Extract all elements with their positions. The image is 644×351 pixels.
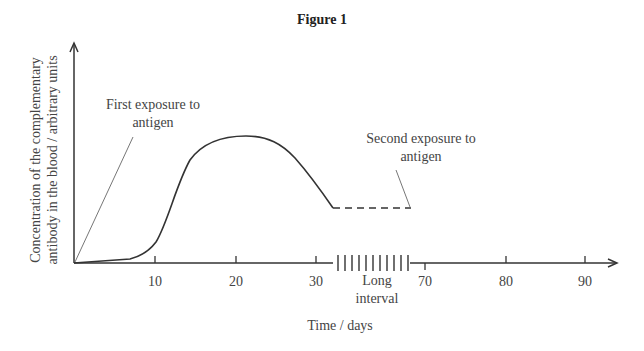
first-exposure-line-1: First exposure to <box>88 96 218 114</box>
x-tick-label: 20 <box>221 274 251 290</box>
second-exposure-line-1: Second exposure to <box>346 130 496 148</box>
second-exposure-leader-line <box>396 170 410 207</box>
x-tick-label: 30 <box>301 274 331 290</box>
y-axis-label: Concentration of the complementary antib… <box>27 30 61 290</box>
antibody-curve <box>74 136 333 263</box>
figure-title: Figure 1 <box>0 12 644 28</box>
long-interval-label: Long interval <box>342 272 412 308</box>
first-exposure-leader-line <box>75 137 133 262</box>
x-tick-label: 70 <box>410 274 440 290</box>
second-exposure-line-2: antigen <box>346 148 496 166</box>
first-exposure-line-2: antigen <box>88 114 218 132</box>
first-exposure-annotation: First exposure to antigen <box>88 96 218 132</box>
axis-break-marks <box>338 255 408 271</box>
y-axis-label-line-2: antibody in the blood / arbitrary units <box>44 30 61 290</box>
x-axis-label: Time / days <box>270 318 410 334</box>
long-interval-line-2: interval <box>342 290 412 308</box>
figure-canvas <box>0 0 644 351</box>
second-exposure-annotation: Second exposure to antigen <box>346 130 496 166</box>
x-tick-label: 10 <box>140 274 170 290</box>
x-tick-label: 80 <box>491 274 521 290</box>
x-tick-label: 90 <box>570 274 600 290</box>
long-interval-line-1: Long <box>342 272 412 290</box>
y-axis-label-line-1: Concentration of the complementary <box>27 30 44 290</box>
